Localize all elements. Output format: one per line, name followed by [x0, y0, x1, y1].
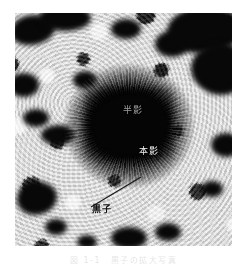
dark-pore — [155, 223, 181, 241]
dark-pore — [45, 219, 67, 235]
dark-pore — [201, 181, 223, 197]
dark-pore — [23, 109, 49, 127]
annotation-label-sunspot: 黒子 — [92, 205, 111, 214]
dark-pore — [111, 227, 147, 246]
figure-caption: 図 1-1 黒子の拡大写真 — [0, 254, 247, 265]
annotation-label-umbra: 本影 — [139, 147, 158, 156]
figure-sunspot: 半影 本影 黒子 図 1-1 黒子の拡大写真 — [0, 0, 247, 268]
dark-pore — [77, 235, 97, 246]
sunspot-photograph: 半影 本影 黒子 — [15, 13, 232, 246]
dark-pore — [111, 19, 141, 39]
sunspot — [63, 63, 195, 189]
annotation-label-penumbra: 半影 — [123, 106, 142, 115]
